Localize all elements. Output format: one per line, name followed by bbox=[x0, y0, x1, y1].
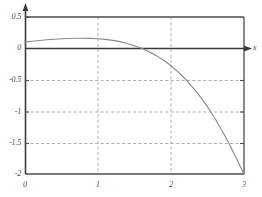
data-curve-series-0 bbox=[25, 38, 244, 174]
y-axis-arrowhead-icon bbox=[23, 3, 29, 11]
y-tick-label-0.5: 0.5 bbox=[1, 13, 21, 21]
y-tick-label-0: 0 bbox=[1, 44, 21, 52]
x-tick-label-1: 1 bbox=[90, 181, 106, 189]
plot-frame bbox=[25, 17, 244, 174]
x-tick-label-3: 3 bbox=[236, 181, 252, 189]
y-tick-label--2: -2 bbox=[1, 170, 21, 178]
vertical-gridlines bbox=[98, 17, 171, 174]
x-axis-arrowhead-icon bbox=[244, 46, 252, 52]
chart-figure: 0.5 0 -0.5 -1 -1.5 -2 0 1 2 3 x bbox=[0, 0, 262, 197]
y-axis bbox=[23, 3, 29, 174]
y-tick-label--1.5: -1.5 bbox=[1, 139, 21, 147]
y-tick-label--1: -1 bbox=[1, 108, 21, 116]
x-axis-label: x bbox=[253, 44, 257, 52]
x-tick-label-2: 2 bbox=[163, 181, 179, 189]
y-tick-label--0.5: -0.5 bbox=[1, 76, 21, 84]
plot-canvas bbox=[0, 0, 262, 197]
x-tick-label-0: 0 bbox=[17, 181, 33, 189]
